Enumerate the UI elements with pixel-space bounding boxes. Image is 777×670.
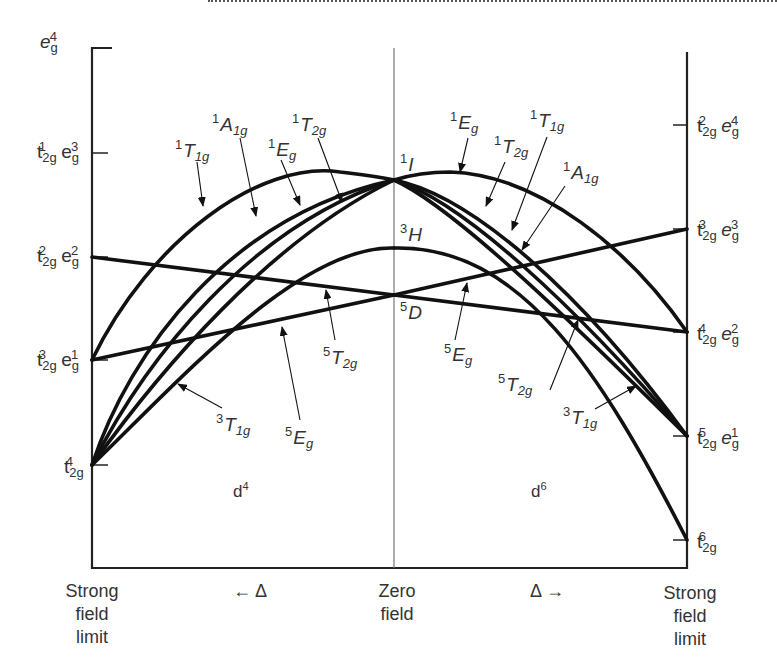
term-left-5T2g: 5T2g bbox=[323, 345, 357, 370]
bottom-delta-right: Δ → bbox=[512, 580, 582, 603]
left-tick-label-t2g2-eg2: t2g2 eg2 bbox=[37, 244, 78, 268]
term-left-3T1g: 3T1g bbox=[216, 412, 250, 437]
term-5D: 5D bbox=[400, 300, 422, 322]
right-tick-label-t2g5-eg1: t2g5 eg1 bbox=[697, 426, 738, 450]
left-tick-label-t2g4: t2g4 bbox=[64, 455, 73, 479]
curve-right-1T2g bbox=[394, 180, 687, 436]
curve-right-1A1g bbox=[394, 180, 687, 436]
term-1I: 1I bbox=[400, 152, 414, 174]
term-3H: 3H bbox=[400, 222, 422, 244]
term-right-1T2g: 1T2g bbox=[494, 134, 528, 159]
panel-label-d6: d6 bbox=[531, 480, 547, 502]
left-tick-label-t2g3-eg1: t2g3 eg1 bbox=[37, 348, 78, 372]
curve-right-1T1g bbox=[394, 180, 687, 436]
term-right-5Eg: 5Eg bbox=[444, 342, 472, 367]
term-right-1A1g: 1A1g bbox=[563, 160, 598, 185]
term-left-1T2g: 1T2g bbox=[292, 112, 326, 137]
right-tick-label-t2g6: t2g6 bbox=[697, 530, 706, 554]
bottom-label-left-strong-field: Strongfieldlimit bbox=[52, 580, 132, 649]
term-right-1Eg: 1Eg bbox=[450, 110, 478, 135]
term-left-1A1g: 1A1g bbox=[212, 112, 247, 137]
right-tick-label-t2g4-eg2: t2g4 eg2 bbox=[697, 322, 738, 346]
bottom-label-right-strong-field: Strongfieldlimit bbox=[650, 582, 730, 651]
term-right-3T1g: 3T1g bbox=[563, 405, 597, 430]
term-left-1T1g: 1T1g bbox=[175, 138, 209, 163]
left-tick-label-t2g1-eg3: t2g1 eg3 bbox=[37, 140, 78, 164]
term-curves bbox=[92, 171, 687, 540]
left-tick-label-eg4: eg4 bbox=[40, 30, 57, 54]
bottom-label-zero-field: Zerofield bbox=[357, 580, 437, 626]
right-tick-label-t2g2-eg4: t2g2 eg4 bbox=[697, 114, 738, 138]
panel-label-d4: d4 bbox=[233, 480, 249, 502]
term-right-1T1g: 1T1g bbox=[530, 108, 564, 133]
correlation-diagram bbox=[0, 0, 777, 670]
bottom-delta-left: ← Δ bbox=[215, 580, 285, 603]
term-right-5T2g: 5T2g bbox=[498, 372, 532, 397]
term-left-1Eg: 1Eg bbox=[268, 137, 296, 162]
term-left-5Eg: 5Eg bbox=[285, 425, 313, 450]
right-tick-label-t2g3-eg3: t2g3 eg3 bbox=[697, 218, 738, 242]
